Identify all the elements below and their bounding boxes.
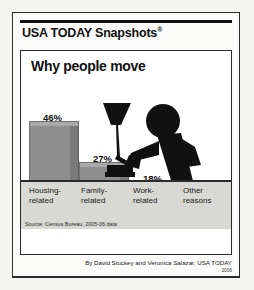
chart-title: Why people move <box>31 58 146 74</box>
category-line: related <box>29 196 61 206</box>
bottom-rule <box>12 276 240 278</box>
category-line: reasons <box>183 196 211 206</box>
category-line: Other <box>183 186 211 196</box>
category-line: Housing- <box>29 186 61 196</box>
registered-trademark-icon: ® <box>157 26 162 33</box>
bar-value-housing-related: 46% <box>43 112 62 123</box>
category-label-housing-related: Housing- related <box>29 186 61 205</box>
category-label-work-related: Work- related <box>133 186 157 205</box>
credit-line: By David Stuckey and Veronica Salazar, U… <box>20 259 232 266</box>
category-line: Work- <box>133 186 157 196</box>
source-note: Source: Census Bureau, 2005-06 data <box>25 221 117 227</box>
bar-value-family-related: 27% <box>93 153 112 164</box>
category-strip: Housing- related Family- related Work- r… <box>21 180 231 229</box>
masthead: USA TODAY Snapshots® <box>20 20 232 42</box>
category-line: related <box>133 196 157 206</box>
chart-panel: Why people move 46% 27% 18% <box>20 50 232 255</box>
plot-area: 46% 27% 18% 8% <box>21 79 231 229</box>
masthead-brand: USA TODAY Snapshots <box>22 26 157 40</box>
category-label-other-reasons: Other reasons <box>183 186 211 205</box>
snapshot-infographic: USA TODAY Snapshots® Why people move 46%… <box>0 0 254 290</box>
year-mark: 2006 <box>20 268 232 273</box>
masthead-title: USA TODAY Snapshots® <box>20 23 232 42</box>
category-label-family-related: Family- related <box>81 186 107 205</box>
category-line: Family- <box>81 186 107 196</box>
category-line: related <box>81 196 107 206</box>
